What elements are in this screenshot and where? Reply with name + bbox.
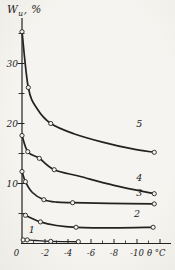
x-tick-label-10: -10: [130, 248, 144, 258]
curve-label-1: 1: [29, 224, 35, 235]
chart: Wu, % -2-4-6-8-100θ °C10203012345: [0, 0, 175, 270]
marker-1-0: [21, 238, 25, 242]
y-tick-label-20: 20: [6, 119, 19, 129]
x-tick-label-6: -6: [87, 248, 96, 258]
y-tick-label-30: 30: [7, 59, 19, 69]
x-axis-unit-label: θ °C: [147, 248, 166, 258]
x-tick-label-2: -2: [41, 248, 49, 258]
y-tick-label-10: 10: [7, 179, 19, 189]
marker-2-2: [74, 225, 78, 229]
marker-5-3: [152, 150, 156, 154]
marker-4-0: [20, 133, 24, 137]
marker-2-3: [151, 225, 155, 229]
marker-3-0: [20, 169, 24, 173]
x-origin-label: 0: [14, 248, 20, 258]
marker-1-2: [49, 239, 53, 243]
marker-3-2: [42, 198, 46, 202]
marker-1-1: [25, 238, 29, 242]
curve-label-2: 2: [133, 208, 140, 219]
x-tick-label-4: -4: [64, 248, 72, 258]
marker-4-3: [52, 168, 56, 172]
marker-5-1: [26, 85, 30, 89]
curve-label-4: 4: [135, 172, 142, 183]
marker-5-2: [49, 121, 53, 125]
marker-2-1: [38, 220, 42, 224]
marker-5-0: [20, 30, 24, 34]
marker-4-2: [37, 156, 41, 160]
marker-1-3: [76, 240, 80, 244]
curve-4: [22, 136, 154, 194]
marker-3-1: [23, 180, 27, 184]
marker-4-4: [152, 192, 156, 196]
curve-label-5: 5: [136, 118, 142, 129]
x-tick-label-8: -8: [110, 248, 119, 258]
curve-label-3: 3: [136, 187, 142, 198]
marker-3-3: [71, 201, 75, 205]
curve-5: [22, 32, 154, 153]
marker-4-1: [26, 150, 30, 154]
marker-3-4: [152, 202, 156, 206]
plot-canvas: -2-4-6-8-100θ °C10203012345: [0, 0, 175, 270]
marker-2-0: [23, 213, 27, 217]
